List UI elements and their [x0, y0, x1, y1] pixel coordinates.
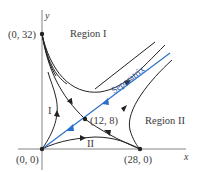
- arrow-icon: [54, 110, 60, 117]
- x-axis-label: x: [183, 151, 189, 162]
- separatrix-arrow-icon: [66, 124, 74, 131]
- arrow-icon: [121, 105, 127, 112]
- separatrix-label: Separatrix: [109, 64, 146, 96]
- arrow-icon: [80, 135, 86, 141]
- phase-plane-diagram: y x Separatrix (0, 32) (0, 0) (28, 0) (1…: [0, 0, 201, 172]
- equilibrium-point: [40, 147, 44, 151]
- point-label-12-8: (12, 8): [90, 115, 118, 127]
- point-label-28-0: (28, 0): [124, 154, 152, 166]
- subregion-1-label: I: [48, 105, 52, 116]
- separatrix-arrow-icon: [102, 98, 109, 105]
- equilibrium-point: [138, 147, 142, 151]
- subregion-2-label: II: [87, 138, 94, 149]
- equilibrium-point: [40, 32, 44, 36]
- arrow-icon: [67, 98, 75, 106]
- arrow-icon: [104, 130, 111, 136]
- region-1-label: Region I: [70, 28, 107, 39]
- trajectory-region1-outer: [42, 34, 165, 92]
- point-label-0-32: (0, 32): [8, 29, 36, 41]
- region-2-label: Region II: [145, 115, 185, 126]
- equilibrium-point: [83, 117, 87, 121]
- point-label-0-0: (0, 0): [16, 154, 39, 166]
- y-axis-label: y: [44, 10, 50, 21]
